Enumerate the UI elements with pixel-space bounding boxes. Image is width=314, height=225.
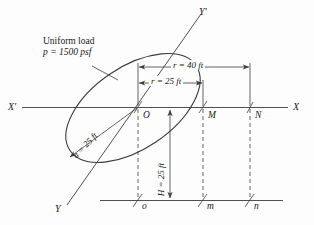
point-label-O: O <box>143 110 150 121</box>
uniform-load-line1: Uniform load <box>43 36 94 47</box>
axis-label-y: Y <box>55 203 61 215</box>
point-label-n-lower: n <box>254 201 259 212</box>
axis-label-y-prime: Y' <box>199 6 207 18</box>
point-label-m-lower: m <box>207 201 214 212</box>
point-label-N: N <box>255 110 261 121</box>
dimension-label-r25: r = 25 ft <box>149 76 183 86</box>
dimension-label-r40: r = 40 ft <box>171 60 205 70</box>
uniform-load-note: Uniform load p = 1500 psf <box>43 36 94 58</box>
axis-label-x: X <box>293 101 299 113</box>
uniform-load-line2: p = 1500 psf <box>43 47 94 58</box>
point-label-M: M <box>208 110 216 121</box>
point-label-o-lower: o <box>142 201 147 212</box>
axis-label-x-prime: X' <box>8 101 16 113</box>
engineering-diagram: Uniform load p = 1500 psf X' X Y' Y O M … <box>0 0 314 225</box>
dimension-label-depth: H = 25 ft <box>156 163 166 196</box>
